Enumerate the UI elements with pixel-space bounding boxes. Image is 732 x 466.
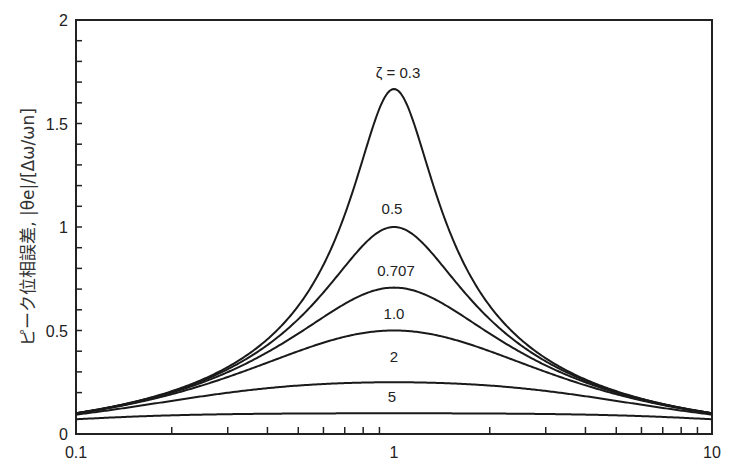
- curve-label: 1.0: [384, 305, 405, 322]
- x-tick-label: 0.1: [65, 444, 87, 461]
- curve-zeta-5: [76, 413, 712, 419]
- curve-label: 0.5: [382, 200, 403, 217]
- y-tick-label: 1: [59, 219, 68, 236]
- curve-label: 5: [388, 388, 396, 405]
- damping-curves: [76, 89, 712, 419]
- curve-label: 2: [390, 348, 398, 365]
- y-tick-label: 0.5: [46, 323, 68, 340]
- curve-label: ζ = 0.3: [376, 64, 421, 81]
- axis-ticks: [76, 41, 697, 434]
- y-axis-title: ピーク位相誤差, |θe|/[Δω/ωn]: [18, 108, 38, 346]
- y-axis-label: ピーク位相誤差, |θe|/[Δω/ωn]: [18, 108, 38, 346]
- y-tick-label: 2: [59, 12, 68, 29]
- peak-phase-error-chart: 0.111000.511.52 ζ = 0.30.50.7071.025 ピーク…: [0, 0, 732, 466]
- x-tick-label: 10: [703, 444, 721, 461]
- y-tick-label: 1.5: [46, 116, 68, 133]
- curve-label: 0.707: [377, 262, 415, 279]
- x-tick-label: 1: [390, 444, 399, 461]
- y-tick-label: 0: [59, 426, 68, 443]
